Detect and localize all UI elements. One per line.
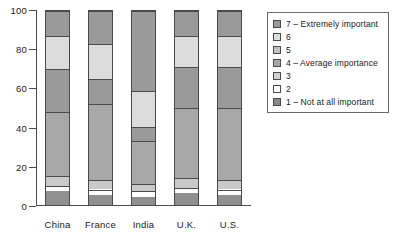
legend-item-label: 7 – Extremely important bbox=[286, 19, 378, 29]
bar-group bbox=[45, 10, 69, 206]
bar-segment[interactable] bbox=[218, 190, 240, 196]
legend-item[interactable]: 5 bbox=[273, 43, 384, 56]
legend-item[interactable]: 1 – Not at all important bbox=[273, 95, 384, 108]
y-axis-tick-label: 0 bbox=[22, 201, 27, 212]
bar-segment[interactable] bbox=[46, 69, 68, 112]
stacked-bar[interactable] bbox=[88, 10, 112, 206]
legend-item[interactable]: 4 – Average importance bbox=[273, 56, 384, 69]
bar-segment[interactable] bbox=[89, 44, 111, 79]
bar-group bbox=[88, 10, 112, 206]
bar-segment[interactable] bbox=[132, 191, 154, 197]
bar-segment[interactable] bbox=[218, 67, 240, 108]
legend-swatch-icon bbox=[273, 20, 281, 28]
bar-segment[interactable] bbox=[46, 112, 68, 176]
y-axis-tick-label: 40 bbox=[16, 122, 27, 133]
bar-group bbox=[174, 10, 198, 206]
bar-segment[interactable] bbox=[175, 193, 197, 205]
legend-swatch-icon bbox=[273, 33, 281, 41]
x-axis-category-label: India bbox=[133, 219, 155, 230]
legend-item-label: 4 – Average importance bbox=[286, 58, 378, 68]
bar-segment[interactable] bbox=[89, 104, 111, 180]
stacked-bar[interactable] bbox=[131, 10, 155, 206]
bar-segment[interactable] bbox=[46, 191, 68, 205]
bars-container bbox=[36, 10, 251, 206]
legend-item-label: 1 – Not at all important bbox=[286, 97, 374, 107]
bar-segment[interactable] bbox=[89, 11, 111, 44]
legend-item[interactable]: 2 bbox=[273, 82, 384, 95]
y-axis-tick bbox=[29, 167, 36, 168]
legend-swatch-icon bbox=[273, 46, 281, 54]
y-axis-tick-label: 60 bbox=[16, 83, 27, 94]
bar-segment[interactable] bbox=[46, 36, 68, 69]
legend-swatch-icon bbox=[273, 59, 281, 67]
plot-area: 020406080100 ChinaFranceIndiaU.K.U.S. bbox=[36, 10, 251, 206]
bar-segment[interactable] bbox=[132, 184, 154, 192]
bar-segment[interactable] bbox=[132, 141, 154, 184]
x-axis-category-label: China bbox=[45, 219, 71, 230]
legend-swatch-icon bbox=[273, 72, 281, 80]
bar-segment[interactable] bbox=[132, 197, 154, 205]
bar-segment[interactable] bbox=[175, 11, 197, 36]
bar-segment[interactable] bbox=[89, 190, 111, 196]
stacked-bar[interactable] bbox=[217, 10, 241, 206]
bar-group bbox=[217, 10, 241, 206]
bar-segment[interactable] bbox=[89, 180, 111, 190]
bar-segment[interactable] bbox=[175, 36, 197, 67]
bar-segment[interactable] bbox=[175, 188, 197, 194]
x-axis-category-label: U.S. bbox=[220, 219, 239, 230]
bar-segment[interactable] bbox=[218, 36, 240, 67]
bar-segment[interactable] bbox=[175, 108, 197, 178]
y-axis-tick bbox=[29, 10, 36, 11]
legend-item-label: 6 bbox=[286, 32, 291, 42]
bar-segment[interactable] bbox=[46, 176, 68, 186]
legend-item[interactable]: 7 – Extremely important bbox=[273, 17, 384, 30]
bar-segment[interactable] bbox=[132, 11, 154, 91]
bar-segment[interactable] bbox=[175, 178, 197, 188]
bar-segment[interactable] bbox=[218, 11, 240, 36]
bar-segment[interactable] bbox=[89, 195, 111, 205]
bar-segment[interactable] bbox=[46, 11, 68, 36]
stacked-bar[interactable] bbox=[45, 10, 69, 206]
bar-segment[interactable] bbox=[132, 127, 154, 141]
y-axis-tick bbox=[29, 128, 36, 129]
legend-item-label: 5 bbox=[286, 45, 291, 55]
legend-item[interactable]: 6 bbox=[273, 30, 384, 43]
legend-swatch-icon bbox=[273, 85, 281, 93]
x-axis-category-label: U.K. bbox=[177, 219, 196, 230]
legend-item-label: 2 bbox=[286, 84, 291, 94]
y-axis-tick-label: 100 bbox=[11, 5, 27, 16]
bar-segment[interactable] bbox=[89, 79, 111, 104]
y-axis-tick bbox=[29, 49, 36, 50]
bar-segment[interactable] bbox=[175, 67, 197, 108]
bar-segment[interactable] bbox=[132, 91, 154, 128]
legend: 7 – Extremely important654 – Average imp… bbox=[267, 12, 389, 113]
legend-item-label: 3 bbox=[286, 71, 291, 81]
stacked-bar-chart: 020406080100 ChinaFranceIndiaU.K.U.S. 7 … bbox=[0, 0, 397, 252]
stacked-bar[interactable] bbox=[174, 10, 198, 206]
legend-swatch-icon bbox=[273, 98, 281, 106]
y-axis-tick-label: 20 bbox=[16, 161, 27, 172]
y-axis-tick bbox=[29, 206, 36, 207]
legend-item[interactable]: 3 bbox=[273, 69, 384, 82]
y-axis-tick-label: 80 bbox=[16, 44, 27, 55]
y-axis-tick bbox=[29, 88, 36, 89]
bar-segment[interactable] bbox=[218, 195, 240, 205]
x-axis-category-label: France bbox=[85, 219, 116, 230]
bar-group bbox=[131, 10, 155, 206]
bar-segment[interactable] bbox=[218, 180, 240, 190]
bar-segment[interactable] bbox=[218, 108, 240, 180]
bar-segment[interactable] bbox=[46, 186, 68, 192]
